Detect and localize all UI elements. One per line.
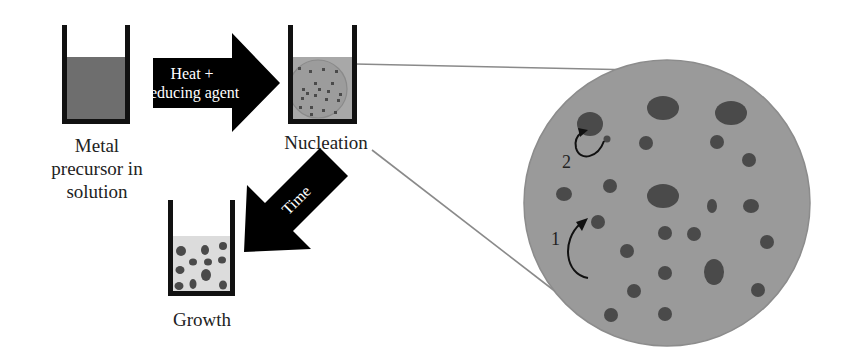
- time-arrow: Time: [244, 148, 348, 252]
- label-growth: Growth: [173, 309, 232, 330]
- heat-arrow: Heat + reducing agent: [145, 33, 280, 132]
- label-precursor-line3: solution: [66, 181, 128, 202]
- beaker-nucleation: [288, 25, 357, 124]
- heat-arrow-label-line1: Heat +: [170, 65, 213, 82]
- label-nucleation: Nucleation: [284, 132, 368, 153]
- step-1-label: 1: [551, 229, 560, 249]
- label-precursor-line1: Metal: [75, 135, 119, 156]
- beaker-wall-right: [125, 25, 130, 124]
- step-2-label: 2: [562, 152, 571, 172]
- heat-arrow-shape: [153, 33, 280, 132]
- beaker-growth: [168, 200, 235, 296]
- zoom-view: 2 1: [524, 60, 810, 346]
- beaker-bottom: [168, 291, 235, 296]
- label-precursor-line2: precursor in: [51, 158, 143, 179]
- beaker-wall-left: [288, 25, 293, 124]
- beaker-bottom: [62, 119, 130, 124]
- beaker-bottom: [288, 119, 357, 124]
- nanoparticle-synthesis-diagram: Metal precursor in solution Heat + reduc…: [0, 0, 852, 355]
- precursor-solution: [67, 57, 125, 119]
- beaker-wall-left: [62, 25, 67, 124]
- zoom-connector-top: [355, 64, 638, 70]
- beaker-wall-right: [352, 25, 357, 124]
- beaker-precursor: [62, 25, 130, 124]
- heat-arrow-label-line2: reducing agent: [145, 84, 240, 102]
- beaker-wall-right: [230, 200, 235, 296]
- beaker-wall-left: [168, 200, 173, 296]
